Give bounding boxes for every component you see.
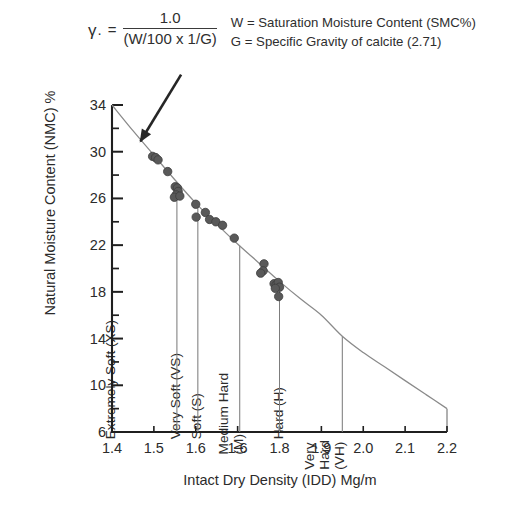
plot-area <box>0 0 523 510</box>
chart-figure: γ. = 1.0 (W/100 x 1/G) W = Saturation Mo… <box>0 0 523 510</box>
data-point <box>271 284 279 292</box>
band-dividers <box>177 182 342 432</box>
data-point <box>176 192 184 200</box>
data-point <box>192 213 200 221</box>
annotation-arrow <box>140 75 181 143</box>
data-point <box>163 167 171 175</box>
data-point <box>218 221 226 229</box>
data-point <box>154 156 162 164</box>
data-point <box>256 269 264 277</box>
data-point <box>274 292 282 300</box>
data-points <box>148 152 283 301</box>
data-point <box>192 200 200 208</box>
data-point <box>230 234 238 242</box>
